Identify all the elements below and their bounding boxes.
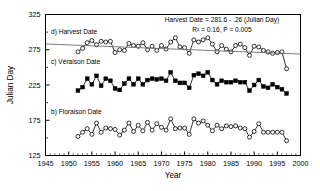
panel-label-harvest: d) Harvest Date <box>51 28 98 36</box>
data-point <box>187 51 191 55</box>
data-point <box>215 123 219 127</box>
data-point <box>113 127 117 131</box>
data-point <box>178 126 182 130</box>
data-point <box>224 124 228 128</box>
panel-label-floraison: b) Floraison Date <box>51 108 102 116</box>
data-point <box>252 130 256 134</box>
data-point <box>229 80 233 84</box>
x-tick-label: 1990 <box>246 159 262 168</box>
data-point <box>118 133 122 137</box>
data-point <box>257 122 261 126</box>
data-point <box>109 79 113 83</box>
figure-container: 125175225275325 194519501955196019651970… <box>0 0 320 191</box>
data-point <box>173 79 177 83</box>
panel-label-veraison: c) Véraison Date <box>51 58 100 66</box>
y-tick-label: 225 <box>29 81 41 90</box>
data-point <box>141 41 145 45</box>
data-point <box>159 125 163 129</box>
data-point <box>104 40 108 44</box>
data-point <box>169 117 173 121</box>
data-point <box>178 45 182 49</box>
data-point <box>85 77 89 81</box>
data-point <box>206 70 210 74</box>
data-point <box>262 85 266 89</box>
data-point <box>285 67 289 71</box>
data-point <box>234 124 238 128</box>
data-point <box>108 39 112 43</box>
x-tick-label: 1975 <box>177 159 193 168</box>
data-point <box>141 82 145 86</box>
series-floraison-date <box>76 117 289 143</box>
y-axis-title: Julian Day <box>6 65 15 104</box>
data-point <box>192 38 196 42</box>
data-point <box>280 87 284 91</box>
data-point <box>197 40 201 44</box>
data-point <box>220 79 224 83</box>
x-tick-label: 1970 <box>153 159 169 168</box>
data-point <box>229 125 233 129</box>
data-point <box>261 48 265 52</box>
data-point <box>160 77 164 81</box>
data-point <box>210 129 214 133</box>
data-point <box>164 79 168 83</box>
data-point <box>285 92 289 96</box>
data-point <box>210 42 214 46</box>
data-point <box>95 121 99 125</box>
data-point <box>211 78 215 82</box>
data-point <box>197 121 201 125</box>
x-tick-label: 1980 <box>200 159 216 168</box>
data-point <box>155 122 159 126</box>
data-point <box>132 82 136 86</box>
data-point <box>169 40 173 44</box>
data-point <box>248 135 252 139</box>
data-point <box>220 127 224 131</box>
data-point <box>206 36 210 40</box>
data-point <box>248 53 252 57</box>
data-point <box>224 80 228 84</box>
x-tick-label: 1955 <box>84 159 100 168</box>
data-point <box>285 139 289 143</box>
data-point <box>99 130 103 134</box>
data-point <box>271 130 275 134</box>
data-point <box>132 44 136 48</box>
data-point <box>118 88 122 92</box>
data-point <box>178 81 182 85</box>
data-point <box>141 129 145 133</box>
data-point <box>81 85 85 89</box>
data-point <box>164 128 168 132</box>
data-point <box>187 86 191 90</box>
data-point <box>90 132 94 136</box>
data-point <box>118 48 122 52</box>
data-point <box>108 127 112 131</box>
data-series-group <box>76 36 289 143</box>
y-tick-label: 275 <box>29 45 41 54</box>
data-point <box>238 42 242 46</box>
y-axis-ticks: 125175225275325 <box>29 10 50 160</box>
data-point <box>197 72 201 76</box>
data-point <box>136 123 140 127</box>
data-point <box>122 48 126 52</box>
data-point <box>85 127 89 131</box>
x-tick-label: 1965 <box>130 159 146 168</box>
y-tick-label: 325 <box>29 10 41 19</box>
data-point <box>122 82 126 86</box>
data-point <box>155 48 159 52</box>
data-point <box>215 82 219 86</box>
x-tick-label: 1960 <box>107 159 123 168</box>
data-point <box>224 47 228 51</box>
data-point <box>280 130 284 134</box>
x-tick-label: 1950 <box>61 159 77 168</box>
data-point <box>169 70 173 74</box>
data-point <box>104 77 108 81</box>
data-point <box>257 45 261 49</box>
data-point <box>76 50 80 54</box>
data-point <box>257 78 261 82</box>
data-point <box>155 77 159 81</box>
data-point <box>95 74 99 78</box>
data-point <box>243 80 247 84</box>
data-point <box>206 123 210 127</box>
data-point <box>104 126 108 130</box>
data-point <box>234 44 238 48</box>
data-point <box>275 85 279 89</box>
data-point <box>220 44 224 48</box>
